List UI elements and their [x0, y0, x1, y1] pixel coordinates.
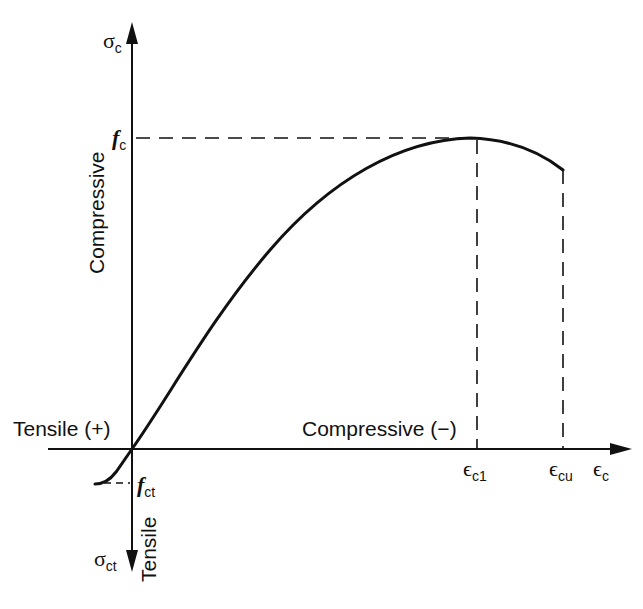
sigma-ct-label: σct: [94, 548, 117, 573]
tensile-vertical-label: Tensile: [138, 517, 159, 582]
ec1-label: ϵc1: [463, 458, 487, 483]
tensile-horizontal-label: Tensile (+): [13, 418, 110, 439]
ecu-label: ϵcu: [549, 458, 573, 483]
compressive-vertical-label: Compressive: [86, 151, 107, 274]
compressive-horizontal-label: Compressive (−): [302, 418, 457, 439]
epsilon-c-axis-label: ϵc: [593, 458, 609, 483]
horizontal-axis-arrow: [610, 443, 632, 455]
fct-label: fct: [137, 474, 155, 499]
vertical-axis-up-arrow: [126, 22, 138, 44]
sigma-c-label: σc: [103, 30, 122, 55]
fc-label: fc: [112, 127, 126, 152]
stress-strain-diagram: σc fc Compressive Tensile (+) Compressiv…: [0, 0, 643, 609]
diagram-graphics: [0, 0, 643, 609]
